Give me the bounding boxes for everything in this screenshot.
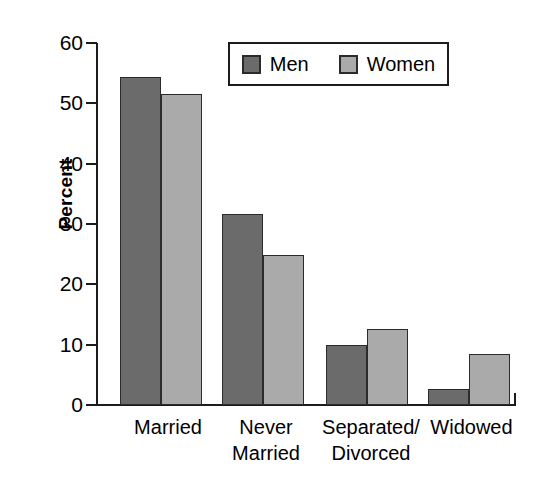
bar-chart: Percent 6050403020100 MarriedNever Marri… (0, 0, 540, 483)
legend-swatch-women-icon (339, 55, 358, 74)
chart-legend: Men Women (228, 42, 449, 86)
bar-men[interactable] (222, 214, 263, 405)
y-axis-tick-label: 60 (37, 32, 83, 53)
legend-swatch-men-icon (242, 55, 261, 74)
bar-women[interactable] (469, 354, 510, 405)
bar-group (222, 43, 304, 405)
legend-label-men: Men (270, 54, 309, 74)
bar-men[interactable] (120, 77, 161, 405)
bar-women[interactable] (263, 255, 304, 405)
y-axis-tick-label: 30 (37, 213, 83, 234)
y-axis-tick-label: 40 (37, 153, 83, 174)
bar-women[interactable] (161, 94, 202, 405)
bar-men[interactable] (428, 389, 469, 405)
bar-group (120, 43, 202, 405)
bar-group (428, 43, 510, 405)
bar-group (326, 43, 408, 405)
legend-entry-women: Women (339, 54, 436, 74)
bar-men[interactable] (326, 345, 367, 405)
x-axis-category-label: Widowed (404, 414, 539, 440)
y-axis-tick-label: 20 (37, 273, 83, 294)
bar-women[interactable] (367, 329, 408, 405)
y-axis-tick-label: 0 (37, 394, 83, 415)
plot-area (98, 43, 516, 405)
y-axis-tick-label: 10 (37, 334, 83, 355)
legend-label-women: Women (367, 54, 436, 74)
y-axis-tick-labels: 6050403020100 (37, 0, 83, 483)
y-axis-tick-label: 50 (37, 92, 83, 113)
legend-entry-men: Men (242, 54, 309, 74)
